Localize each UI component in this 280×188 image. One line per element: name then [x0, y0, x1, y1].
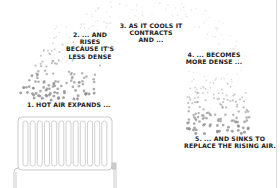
step-2-label: 2. ... AND RISES BECAUSE IT'S LESS DENSE [60, 31, 120, 60]
step-2-line-3: BECAUSE IT'S [60, 45, 120, 52]
step-4-line-2: MORE DENSE ... [184, 58, 244, 65]
step-2-line-2: RISES [60, 38, 120, 45]
convection-diagram: 1. HOT AIR EXPANDS ... 2. ... AND RISES … [0, 0, 280, 188]
step-3-line-2: CONTRACTS [116, 29, 186, 36]
step-3-label: 3. AS IT COOLS IT CONTRACTS AND ... [116, 22, 186, 44]
step-3-line-3: AND ... [116, 36, 186, 43]
step-5-line-1: 5. ... AND SINKS TO [182, 135, 278, 142]
step-5-line-2: REPLACE THE RISING AIR. [182, 142, 278, 149]
step-1-label: 1. HOT AIR EXPANDS ... [27, 101, 107, 108]
frame-edge-line [276, 0, 277, 188]
step-3-line-1: 3. AS IT COOLS IT [116, 22, 186, 29]
step-5-label: 5. ... AND SINKS TO REPLACE THE RISING A… [182, 135, 278, 149]
step-4-line-1: 4. ... BECOMES [184, 51, 244, 58]
step-1-line-1: 1. HOT AIR EXPANDS ... [27, 101, 107, 108]
step-4-label: 4. ... BECOMES MORE DENSE ... [184, 51, 244, 65]
step-2-line-4: LESS DENSE [60, 53, 120, 60]
step-2-line-1: 2. ... AND [60, 31, 120, 38]
